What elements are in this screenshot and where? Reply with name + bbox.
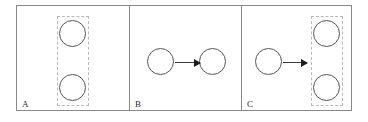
node-c-left — [255, 48, 282, 75]
node-a-top — [59, 20, 86, 47]
panel-a-label: A — [22, 99, 29, 109]
node-b-right — [199, 48, 226, 75]
arrow-c — [283, 62, 307, 63]
panel-b-label: B — [135, 99, 141, 109]
arrow-b-head-icon — [194, 59, 201, 67]
node-a-bottom — [59, 74, 86, 101]
arrow-b — [175, 62, 200, 63]
panel-b: B — [129, 6, 241, 110]
node-c-top — [313, 20, 340, 47]
panel-c-label: C — [247, 99, 253, 109]
panel-a: A — [17, 6, 129, 110]
panel-c: C — [241, 6, 353, 110]
node-c-bottom — [313, 74, 340, 101]
arrow-c-head-icon — [301, 59, 308, 67]
figure-canvas: A B C — [0, 0, 368, 122]
node-b-left — [147, 48, 174, 75]
figure-frame: A B C — [16, 5, 352, 111]
